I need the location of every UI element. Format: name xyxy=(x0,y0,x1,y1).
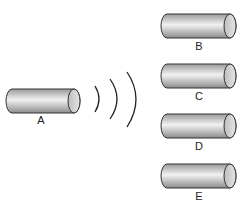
wave-arc-1 xyxy=(95,86,99,112)
tube-b xyxy=(161,14,236,38)
tube-a-label: A xyxy=(37,114,45,126)
tube-e xyxy=(161,164,236,188)
wave-arc-3 xyxy=(127,72,136,127)
tube-e-label: E xyxy=(195,190,202,202)
tube-a xyxy=(6,89,80,113)
tube-b-label: B xyxy=(195,40,202,52)
sound-waves xyxy=(95,72,136,127)
wave-arc-2 xyxy=(110,79,117,119)
tube-d-label: D xyxy=(195,140,203,152)
tube-c-label: C xyxy=(195,90,203,102)
tube-d xyxy=(161,114,236,138)
tube-c xyxy=(161,64,236,88)
tube-diagram: A B C D E xyxy=(0,0,245,207)
